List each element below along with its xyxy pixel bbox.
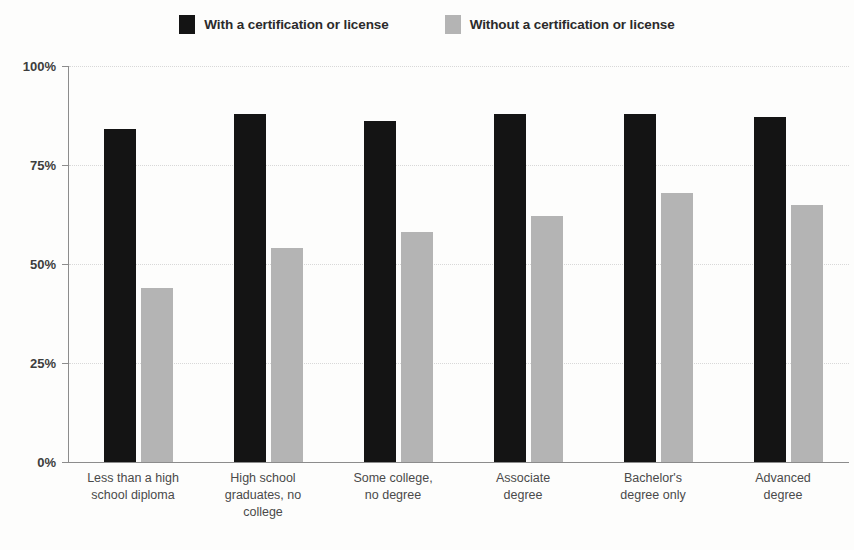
y-axis-label: 25% [30,356,56,371]
bar-with-certification [234,114,266,462]
bar-group [364,66,433,462]
y-gridline [69,165,849,166]
bar-with-certification [364,121,396,462]
y-axis-tick [62,462,69,463]
x-axis-category-label: Advanced degree [718,470,848,504]
bar-without-certification [141,288,173,462]
legend-item-with-certification: With a certification or license [179,15,388,34]
legend-label-without-certification: Without a certification or license [470,17,675,32]
x-axis-category-label: Bachelor's degree only [588,470,718,504]
x-axis-category-label: High school graduates, no college [198,470,328,521]
bar-group [754,66,823,462]
bar-with-certification [104,129,136,462]
bar-with-certification [754,117,786,462]
plot-area: 0%25%50%75%100% [68,66,849,463]
y-axis-label: 0% [37,455,56,470]
bar-without-certification [401,232,433,462]
bar-group [494,66,563,462]
y-axis-tick [62,264,69,265]
bar-group [104,66,173,462]
x-axis-category-label: Associate degree [458,470,588,504]
bar-group [234,66,303,462]
bar-without-certification [531,216,563,462]
x-axis-category-label: Less than a high school diploma [68,470,198,504]
y-gridline [69,264,849,265]
chart-legend: With a certification or license Without … [0,10,854,38]
bar-without-certification [661,193,693,462]
y-axis-tick [62,363,69,364]
y-gridline [69,363,849,364]
y-axis-tick [62,66,69,67]
y-axis-label: 100% [23,59,56,74]
legend-swatch-without-certification [445,15,461,34]
bar-without-certification [791,205,823,462]
bar-with-certification [494,114,526,462]
bar-group [624,66,693,462]
bar-without-certification [271,248,303,462]
x-axis-category-label: Some college, no degree [328,470,458,504]
legend-swatch-with-certification [179,15,195,34]
y-axis-label: 50% [30,257,56,272]
y-axis-label: 75% [30,158,56,173]
y-axis-tick [62,165,69,166]
bar-chart: With a certification or license Without … [0,0,854,550]
y-gridline [69,66,849,67]
legend-label-with-certification: With a certification or license [204,17,388,32]
bar-with-certification [624,114,656,462]
x-axis-labels: Less than a high school diplomaHigh scho… [68,470,848,548]
legend-item-without-certification: Without a certification or license [445,15,675,34]
